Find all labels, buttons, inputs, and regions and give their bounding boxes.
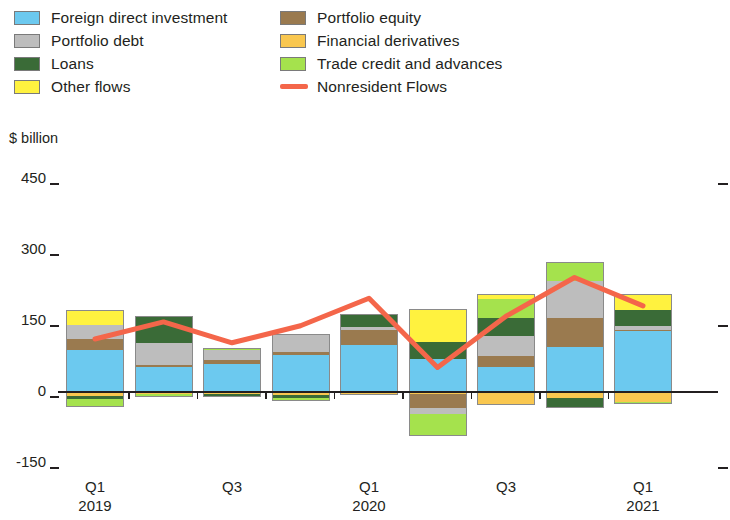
nonresident-flows-line — [0, 0, 730, 520]
x-axis-label: Q12021 — [603, 478, 683, 514]
x-axis-label: Q3 — [466, 478, 546, 495]
x-axis-label-quarter: Q1 — [603, 478, 683, 495]
nonresident-flows-polyline — [95, 277, 643, 367]
x-axis-label-quarter: Q3 — [466, 478, 546, 495]
x-axis-label-quarter: Q1 — [329, 478, 409, 495]
x-axis-label-year: 2019 — [55, 497, 135, 514]
x-axis-label-quarter: Q1 — [55, 478, 135, 495]
chart-root: Foreign direct investment Portfolio debt… — [0, 0, 730, 520]
x-axis-label-year: 2021 — [603, 497, 683, 514]
x-axis-label-year: 2020 — [329, 497, 409, 514]
x-axis-label-quarter: Q3 — [192, 478, 272, 495]
plot-area: 4503001500-150Q12019Q3Q12020Q3Q12021 — [0, 0, 730, 520]
x-axis-label: Q3 — [192, 478, 272, 495]
x-axis-label: Q12020 — [329, 478, 409, 514]
x-axis-label: Q12019 — [55, 478, 135, 514]
